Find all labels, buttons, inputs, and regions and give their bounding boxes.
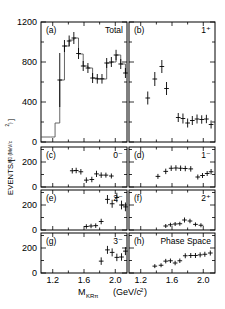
- panel-h: (h)Phase Space: [129, 233, 215, 273]
- data-point: [86, 63, 91, 73]
- x-tick-label: 2.0: [197, 275, 210, 285]
- y-tick-label: 200: [22, 200, 37, 210]
- panel-tag: (a): [46, 25, 57, 35]
- y-tick-label: 400: [22, 97, 37, 107]
- data-point: [204, 115, 209, 123]
- data-point: [95, 74, 100, 84]
- data-point: [105, 195, 110, 204]
- y-tick-label: 0: [32, 182, 37, 192]
- data-point: [163, 224, 168, 228]
- y-tick-label: 200: [22, 157, 37, 167]
- data-point: [67, 36, 72, 47]
- data-point: [104, 58, 109, 68]
- y-tick-label: 0: [32, 225, 37, 235]
- data-point: [100, 74, 105, 84]
- data-point: [188, 253, 193, 258]
- panel-a: 04008001200(a)Total: [17, 17, 128, 147]
- data-point: [104, 173, 109, 178]
- data-point: [163, 169, 168, 175]
- y-tick-label: 0: [32, 268, 37, 278]
- panel-e: 0200(e)2⁻: [22, 190, 128, 235]
- data-point: [159, 263, 164, 267]
- y-tick-label: 800: [22, 57, 37, 67]
- x-tick-label: 1.2: [46, 275, 59, 285]
- data-point: [177, 222, 182, 226]
- histogram-outline: [41, 38, 127, 137]
- data-point: [71, 32, 76, 44]
- data-point: [145, 92, 150, 105]
- panel-tag: (f): [134, 193, 142, 203]
- data-point: [183, 253, 188, 258]
- x-axis-title: MKRπ(GeV/c2): [78, 287, 147, 299]
- y-axis-title-part-0: EVENTS/[: [6, 159, 15, 195]
- x-axis-title-M: M: [78, 287, 86, 297]
- panel-title: Phase Space: [160, 236, 211, 246]
- data-point: [62, 40, 67, 52]
- physics-figure: 04008001200(a)Total(b)1⁺0200(c)0⁻(d)1⁻02…: [0, 0, 225, 309]
- panel-tag: (h): [134, 236, 145, 246]
- data-point: [199, 223, 204, 227]
- data-point: [164, 82, 169, 95]
- data-point: [188, 166, 193, 172]
- data-point: [84, 177, 89, 183]
- panel-frame: [41, 22, 127, 142]
- panel-title: 2⁻: [113, 193, 123, 203]
- panel-tag: (b): [134, 25, 145, 35]
- data-point: [81, 61, 86, 71]
- y-axis-title-part-1: 60 (MeV/c: [8, 140, 13, 162]
- panel-title: 3⁻: [113, 236, 123, 246]
- data-point: [195, 175, 200, 180]
- y-tick-label: 1200: [17, 17, 37, 27]
- panel-b: (b)1⁺: [129, 22, 215, 142]
- data-point: [105, 246, 110, 254]
- panel-g: 0200(g)3⁻: [22, 233, 128, 278]
- panel-tag: (d): [134, 150, 145, 160]
- data-point: [84, 224, 89, 229]
- data-point: [178, 166, 183, 172]
- data-point: [79, 169, 84, 175]
- panel-tag: (e): [46, 193, 57, 203]
- data-point: [188, 219, 193, 224]
- data-point: [163, 259, 168, 264]
- data-point: [89, 224, 94, 229]
- x-tick-label: 2.0: [109, 275, 122, 285]
- data-point: [183, 166, 188, 172]
- data-point: [76, 48, 81, 59]
- panel-c: 0200(c)0⁻: [22, 147, 127, 192]
- data-point: [208, 251, 213, 256]
- panel-d: (d)1⁻: [129, 147, 215, 187]
- data-point: [118, 59, 123, 69]
- data-point: [198, 252, 203, 257]
- y-axis-title: EVENTS/[60 (MeV/c2)]: [5, 119, 15, 195]
- panel-title: 0⁻: [113, 150, 123, 160]
- x-axis-title-units-close: ): [144, 287, 147, 297]
- data-point: [109, 57, 114, 67]
- data-point: [176, 113, 181, 122]
- data-point: [90, 73, 95, 83]
- data-point: [159, 60, 164, 73]
- data-point: [200, 173, 205, 178]
- x-axis-title-units: (GeV/c: [113, 287, 142, 297]
- data-point: [110, 248, 115, 256]
- panel-title: 1⁺: [201, 25, 211, 35]
- data-point: [94, 171, 99, 177]
- panel-title: Total: [105, 25, 123, 35]
- data-point: [195, 115, 200, 124]
- panel-frame: [129, 22, 215, 142]
- multi-panel-plot: 04008001200(a)Total(b)1⁺0200(c)0⁻(d)1⁻02…: [0, 0, 225, 309]
- data-point: [182, 218, 187, 223]
- data-point: [190, 116, 195, 125]
- x-tick-label: 1.6: [78, 275, 91, 285]
- data-point: [169, 166, 174, 172]
- data-point: [57, 53, 62, 107]
- data-point: [119, 253, 124, 261]
- panel-f: (f)2⁺: [129, 190, 215, 230]
- data-point: [177, 259, 182, 264]
- panel-tag: (g): [46, 236, 57, 246]
- y-tick-label: 0: [32, 137, 37, 147]
- data-point: [89, 177, 94, 183]
- data-point: [93, 223, 98, 228]
- y-tick-label: 200: [22, 243, 37, 253]
- data-point: [199, 115, 204, 123]
- data-point: [152, 264, 157, 268]
